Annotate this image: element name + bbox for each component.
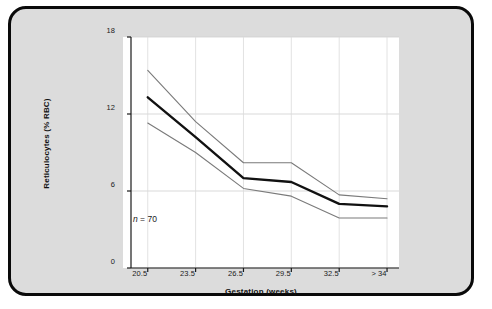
x-tick-label: 20.5 xyxy=(116,269,164,278)
x-tick-label: 23.5 xyxy=(164,269,212,278)
y-tick-label: 6 xyxy=(75,180,115,189)
figure-frame: 06121820.523.526.529.532.5> 34 Gestation… xyxy=(8,6,474,296)
data-series-group xyxy=(148,70,387,218)
x-tick-label: 26.5 xyxy=(211,269,259,278)
y-tick-label: 0 xyxy=(75,257,115,266)
x-axis-title: Gestation (weeks) xyxy=(123,287,399,296)
x-tick-label: 29.5 xyxy=(259,269,307,278)
sample-size-annotation: n = 70 xyxy=(133,214,157,224)
tick-marks-group xyxy=(127,37,387,272)
x-tick-label: > 34 xyxy=(355,269,403,278)
gridlines-group xyxy=(131,37,399,268)
sample-size-value: = 70 xyxy=(138,214,157,224)
y-axis-title: Reticulocytes (% RBC) xyxy=(42,54,51,234)
x-tick-label: 32.5 xyxy=(307,269,355,278)
axes-group xyxy=(131,37,399,268)
y-tick-label: 12 xyxy=(75,103,115,112)
y-tick-label: 18 xyxy=(75,26,115,35)
